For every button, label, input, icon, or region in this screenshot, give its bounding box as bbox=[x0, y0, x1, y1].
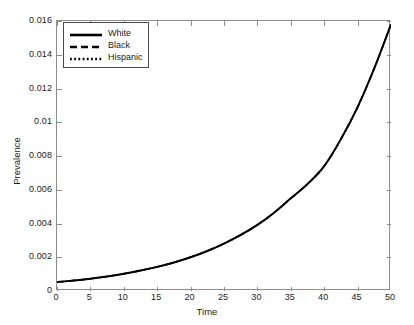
x-axis-tick-label: 45 bbox=[351, 292, 361, 302]
legend-line-sample-solid bbox=[68, 27, 104, 39]
y-axis-tick-label: 0 bbox=[47, 285, 52, 295]
legend-item: Hispanic bbox=[68, 51, 144, 63]
y-axis-title: Prevalence bbox=[11, 137, 22, 185]
x-axis-tick-label: 20 bbox=[184, 292, 194, 302]
legend-item: Black bbox=[68, 39, 144, 51]
legend-line-sample-dotted bbox=[68, 51, 104, 63]
x-axis-tick-label: 5 bbox=[87, 292, 92, 302]
y-axis-title-wrapper: Prevalence bbox=[10, 155, 22, 167]
x-axis-tick-label: 40 bbox=[318, 292, 328, 302]
y-axis-tick-label: 0.014 bbox=[29, 49, 52, 59]
legend-label: White bbox=[108, 27, 131, 39]
y-axis-tick-label: 0.01 bbox=[34, 116, 52, 126]
y-axis-tick-label: 0.004 bbox=[29, 218, 52, 228]
y-axis-tick-label: 0.002 bbox=[29, 251, 52, 261]
y-axis-tick-labels: 00.0020.0040.0060.0080.010.0120.0140.016 bbox=[0, 0, 52, 325]
x-axis-tick-label: 50 bbox=[385, 292, 395, 302]
chart-figure: 00.0020.0040.0060.0080.010.0120.0140.016… bbox=[0, 0, 414, 325]
x-axis-tick-label: 0 bbox=[53, 292, 58, 302]
chart-legend: WhiteBlackHispanic bbox=[63, 22, 149, 68]
x-axis-tick-label: 35 bbox=[285, 292, 295, 302]
x-axis-tick-label: 10 bbox=[118, 292, 128, 302]
legend-label: Hispanic bbox=[108, 51, 143, 63]
x-axis-tick-label: 15 bbox=[151, 292, 161, 302]
x-axis-title: Time bbox=[0, 306, 414, 317]
x-axis-tick-label: 25 bbox=[218, 292, 228, 302]
legend-line-sample-dashed bbox=[68, 39, 104, 51]
y-axis-tick-label: 0.016 bbox=[29, 15, 52, 25]
legend-item: White bbox=[68, 27, 144, 39]
y-axis-tick-label: 0.012 bbox=[29, 83, 52, 93]
y-axis-tick-label: 0.008 bbox=[29, 150, 52, 160]
y-axis-tick-label: 0.006 bbox=[29, 184, 52, 194]
x-axis-tick-label: 30 bbox=[251, 292, 261, 302]
legend-label: Black bbox=[108, 39, 130, 51]
